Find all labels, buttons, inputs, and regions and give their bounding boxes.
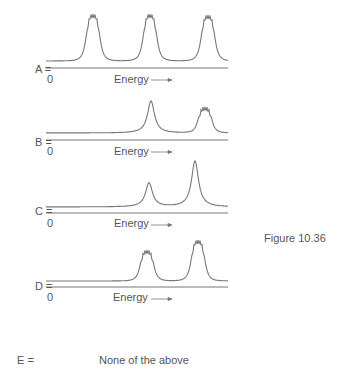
panel-d-origin: 0 <box>47 291 53 303</box>
panel-b-energy-label: Energy <box>114 145 149 157</box>
panel-c-spectrum <box>46 161 228 207</box>
panel-c-origin: 0 <box>47 217 53 229</box>
panel-d-spectrum <box>46 240 228 281</box>
panel-a-spectrum <box>46 14 228 61</box>
spectra-figure <box>0 0 344 387</box>
energy-arrow-icon <box>151 298 172 301</box>
figure-caption: Figure 10.36 <box>264 232 326 244</box>
panel-a-origin: 0 <box>47 73 53 85</box>
panel-d-energy-label: Energy <box>113 291 148 303</box>
option-e-label: E = <box>17 354 34 366</box>
energy-arrow-icon <box>151 224 172 227</box>
panel-a-energy-label: Energy <box>114 73 149 85</box>
option-c-label: C = <box>35 205 52 217</box>
panel-c-energy-label: Energy <box>114 217 149 229</box>
panel-b-origin: 0 <box>47 145 53 157</box>
energy-arrow-icon <box>151 79 172 82</box>
energy-arrow-icon <box>151 151 172 154</box>
panel-b-spectrum <box>46 101 228 133</box>
option-e-text: None of the above <box>99 354 189 366</box>
